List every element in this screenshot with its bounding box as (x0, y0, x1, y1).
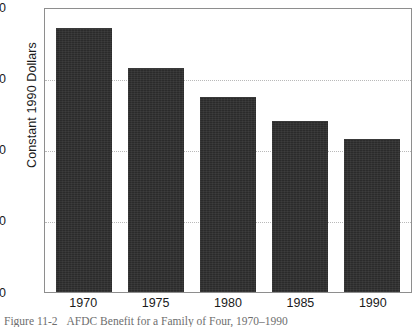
y-tick-label: 600 (0, 73, 6, 86)
y-axis-title: Constant 1990 Dollars (25, 0, 39, 225)
x-tick-label: 1985 (264, 296, 336, 310)
bar-1985 (272, 121, 329, 292)
x-tick-label: 1990 (337, 296, 409, 310)
bar-slot (264, 9, 336, 292)
figure-caption: Figure 11-2AFDC Benefit for a Family of … (4, 315, 416, 327)
y-tick-label: 400 (0, 144, 6, 157)
y-tick-label: 0 (0, 287, 6, 300)
x-tick-label: 1980 (192, 296, 264, 310)
bar-slot (336, 9, 408, 292)
bar-slot (120, 9, 192, 292)
bar-1975 (128, 68, 185, 292)
x-tick-label: 1970 (47, 296, 119, 310)
figure-bar-chart: Constant 1990 Dollars 800 600 400 200 0 … (0, 0, 420, 327)
plot-area (44, 8, 412, 293)
bar-1980 (200, 97, 257, 292)
bar-series (45, 9, 411, 292)
bar-slot (192, 9, 264, 292)
figure-caption-number: Figure 11-2 (4, 315, 58, 327)
x-axis-tick-labels: 1970 1975 1980 1985 1990 (44, 296, 412, 310)
figure-caption-text: AFDC Benefit for a Family of Four, 1970–… (67, 315, 288, 327)
bar-1970 (56, 28, 113, 292)
y-tick-label: 200 (0, 215, 6, 228)
x-tick-label: 1975 (119, 296, 191, 310)
y-tick-label: 800 (0, 2, 6, 15)
bar-1990 (344, 139, 401, 292)
bar-slot (48, 9, 120, 292)
